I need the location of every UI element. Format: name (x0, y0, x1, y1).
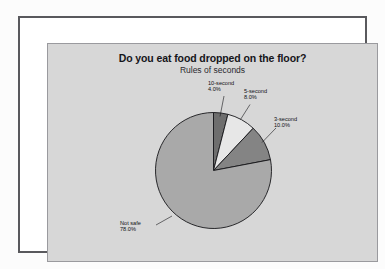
outer-frame: Do you eat food dropped on the floor? Ru… (18, 16, 367, 253)
pie-label-3-second-percent: 10.0% (274, 122, 297, 128)
leader-line-5-second (241, 105, 251, 120)
pie-label-5-second-percent: 8.0% (244, 94, 267, 100)
leader-line-not-safe (156, 216, 172, 225)
pie-label-3-second: 3-second 10.0% (274, 116, 297, 129)
pie-chart: 10-second 4.0% 5-second 8.0% 3-second 10… (48, 44, 377, 261)
pie-label-not-safe-percent: 78.0% (120, 226, 141, 232)
pie-label-5-second-name: 5-second (244, 88, 267, 94)
pie-label-not-safe: Not safe 78.0% (120, 220, 141, 233)
chart-panel: Do you eat food dropped on the floor? Ru… (47, 43, 378, 262)
pie-label-10-second-percent: 4.0% (208, 86, 234, 92)
leader-line-3-second (262, 128, 276, 143)
pie-svg (48, 44, 379, 263)
pie-label-10-second-name: 10-second (208, 80, 234, 86)
pie-label-3-second-name: 3-second (274, 116, 297, 122)
pie-label-10-second: 10-second 4.0% (208, 80, 234, 93)
pie-label-5-second: 5-second 8.0% (244, 88, 267, 101)
pie-label-not-safe-name: Not safe (120, 220, 141, 226)
chart-image: Do you eat food dropped on the floor? Ru… (0, 0, 385, 269)
chart-inner: Do you eat food dropped on the floor? Ru… (48, 44, 377, 261)
